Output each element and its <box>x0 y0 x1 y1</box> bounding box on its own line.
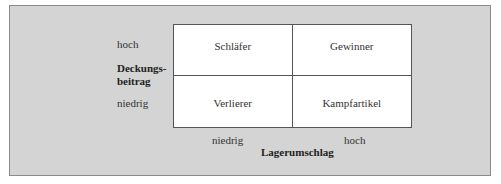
quadrant-label: Gewinner <box>293 40 412 52</box>
y-axis-title-line1: Deckungs- <box>117 62 167 75</box>
x-axis-title: Lagerumschlag <box>261 146 334 158</box>
portfolio-matrix: Schläfer Gewinner Verlierer Kampfartikel <box>173 24 412 128</box>
quadrant-bottom-right: Kampfartikel <box>293 76 412 127</box>
y-axis-title-line2: beitrag <box>117 75 167 88</box>
quadrant-bottom-left: Verlierer <box>174 76 293 127</box>
quadrant-label: Schläfer <box>174 40 292 52</box>
x-axis-low-label: niedrig <box>212 134 243 146</box>
y-axis-low-label: niedrig <box>117 97 148 109</box>
quadrant-label: Kampfartikel <box>293 97 412 109</box>
quadrant-label: Verlierer <box>174 97 292 109</box>
quadrant-top-right: Gewinner <box>293 25 412 76</box>
y-axis-title: Deckungs- beitrag <box>117 62 167 88</box>
y-axis-high-label: hoch <box>117 38 138 50</box>
x-axis-high-label: hoch <box>344 134 365 146</box>
quadrant-top-left: Schläfer <box>174 25 293 76</box>
